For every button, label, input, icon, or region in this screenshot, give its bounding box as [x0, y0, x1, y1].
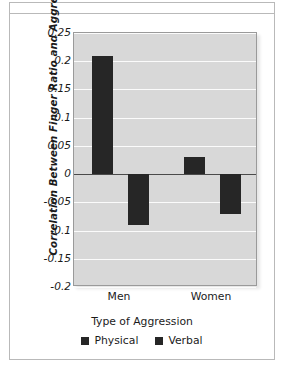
x-axis-tick-label: Women	[191, 290, 232, 303]
x-axis-title: Type of Aggression	[10, 315, 274, 328]
y-axis-tick-label: -0.1	[25, 224, 71, 236]
y-axis-tick-labels: 0.250.20.150.10.050-0.05-0.1-0.15-0.2	[19, 32, 71, 286]
y-axis-tick-label: 0.2	[25, 54, 71, 66]
chart-legend: PhysicalVerbal	[10, 334, 274, 347]
gridline	[74, 287, 256, 288]
gridline	[74, 259, 256, 260]
legend-entry: Verbal	[155, 334, 202, 347]
y-axis-tick-label: -0.2	[25, 280, 71, 292]
gridline	[74, 231, 256, 232]
legend-label: Verbal	[168, 334, 202, 347]
figure-frame: Correlation Between Finger Ratio and Agg…	[9, 2, 275, 360]
plot-area	[73, 32, 257, 286]
bar	[92, 56, 113, 175]
bar	[184, 157, 205, 174]
legend-swatch-icon	[81, 337, 89, 345]
y-axis-tick-label: 0	[25, 167, 71, 179]
y-axis-tick-label: 0.05	[25, 139, 71, 151]
y-axis-tick-label: -0.05	[25, 195, 71, 207]
y-axis-tick-label: -0.15	[25, 252, 71, 264]
x-axis-tick-label: Men	[108, 290, 131, 303]
legend-label: Physical	[94, 334, 138, 347]
legend-swatch-icon	[155, 337, 163, 345]
y-axis-tick-label: 0.1	[25, 111, 71, 123]
gridline	[74, 33, 256, 34]
x-axis-tick-labels: MenWomen	[73, 290, 257, 306]
y-axis-tick-label: 0.25	[25, 26, 71, 38]
y-axis-tick-label: 0.15	[25, 82, 71, 94]
bar	[128, 174, 149, 225]
bar	[220, 174, 241, 214]
legend-entry: Physical	[81, 334, 138, 347]
